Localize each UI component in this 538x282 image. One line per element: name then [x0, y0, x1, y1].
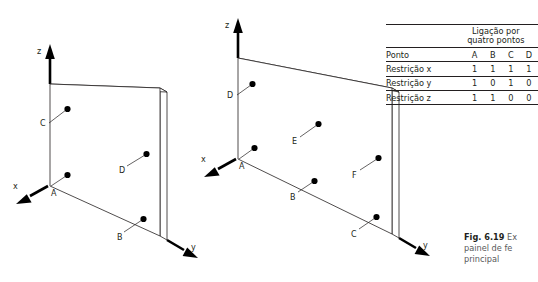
- cell-x-A: 1: [466, 62, 484, 76]
- cell-x-B: 1: [484, 62, 502, 76]
- row-spacer: [454, 76, 466, 90]
- right-axis-x: x: [201, 155, 236, 177]
- row-label-restricao-z: Restrição z: [386, 91, 454, 105]
- right-axis-z: z: [225, 18, 243, 58]
- table-column-header-row: Ponto A B C D: [386, 48, 538, 62]
- column-header-ponto: Ponto: [386, 48, 454, 62]
- column-spacer: [454, 48, 466, 62]
- right-axis-x-label: x: [201, 155, 206, 164]
- cell-y-A: 1: [466, 76, 484, 90]
- cell-z-C: 0: [502, 91, 520, 105]
- row-spacer: [454, 91, 466, 105]
- column-header-C: C: [502, 48, 520, 62]
- cell-y-B: 0: [484, 76, 502, 90]
- right-point-B-label: B: [290, 193, 296, 202]
- table-row: Restrição x 1 1 1 1: [386, 62, 538, 76]
- cell-z-D: 0: [520, 91, 538, 105]
- row-label-restricao-x: Restrição x: [386, 62, 454, 76]
- cell-x-D: 1: [520, 62, 538, 76]
- right-point-A-label: A: [239, 162, 245, 171]
- group-header-line2: quatro pontos: [467, 35, 524, 45]
- column-header-A: A: [466, 48, 484, 62]
- table-row: Restrição z 1 1 0 0: [386, 91, 538, 105]
- cell-x-C: 1: [502, 62, 520, 76]
- right-point-F-label: F: [352, 171, 357, 180]
- right-panel-face: [238, 58, 392, 234]
- column-header-D: D: [520, 48, 538, 62]
- right-point-D-label: D: [227, 91, 233, 100]
- caption-line-1-rest: Ex: [504, 232, 517, 242]
- right-axis-y: y: [399, 238, 430, 256]
- cell-y-D: 0: [520, 76, 538, 90]
- right-axis-z-label: z: [225, 21, 229, 30]
- restraint-table: Ligação por quatro pontos Ponto A B C D …: [386, 24, 538, 105]
- group-header-cell: Ligação por quatro pontos: [454, 25, 538, 48]
- cell-y-C: 1: [502, 76, 520, 90]
- right-point-E-label: E: [292, 137, 297, 146]
- group-header-blank: [386, 25, 454, 48]
- caption-figure-number: Fig. 6.19: [464, 232, 504, 242]
- column-header-B: B: [484, 48, 502, 62]
- row-spacer: [454, 62, 466, 76]
- right-panel-thickness: [392, 88, 399, 238]
- row-label-restricao-y: Restrição y: [386, 76, 454, 90]
- cell-z-A: 1: [466, 91, 484, 105]
- right-point-C-label: C: [351, 230, 357, 239]
- cell-z-B: 1: [484, 91, 502, 105]
- right-axis-y-label: y: [423, 241, 428, 250]
- caption-line-3: principal: [464, 254, 536, 265]
- caption-line-1: Fig. 6.19 Ex: [464, 232, 536, 243]
- table-row: Restrição y 1 0 1 0: [386, 76, 538, 90]
- figure-caption: Fig. 6.19 Ex painel de fe principal: [464, 232, 536, 264]
- caption-line-2: painel de fe: [464, 243, 536, 254]
- table-group-header-row: Ligação por quatro pontos: [386, 25, 538, 48]
